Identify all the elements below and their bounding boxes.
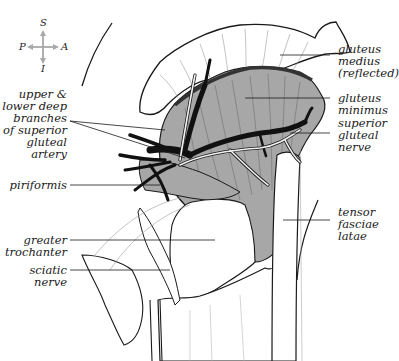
label-superior-gluteal-nerve: superior gluteal nerve xyxy=(338,117,387,153)
label-deep-branches-superior-gluteal-artery: upper & lower deep branches of superior … xyxy=(2,88,67,160)
compass-inferior: I xyxy=(41,63,45,74)
label-tensor-fasciae-latae: tensor fasciae latae xyxy=(338,206,379,242)
tfl-edge xyxy=(297,200,318,280)
label-greater-trochanter: greater trochanter xyxy=(5,234,67,258)
arrow-right-icon xyxy=(53,44,59,50)
label-gluteus-medius-reflected: gluteus medius (reflected) xyxy=(338,43,399,79)
tfl-fiber xyxy=(300,140,302,361)
compass-arrows xyxy=(30,33,56,61)
label-gluteus-minimus: gluteus minimus xyxy=(338,92,388,116)
arrow-up-icon xyxy=(40,30,46,36)
compass-anterior: A xyxy=(61,41,68,52)
arrow-left-icon xyxy=(27,44,33,50)
tensor-fasciae-latae-band xyxy=(272,152,300,361)
label-sciatic-nerve: sciatic nerve xyxy=(29,264,67,288)
compass-superior: S xyxy=(40,17,47,28)
ischium-outline xyxy=(82,255,143,345)
skin-contour xyxy=(82,23,112,86)
femur-left-edge xyxy=(150,300,152,361)
compass-posterior: P xyxy=(19,41,26,52)
label-piriformis: piriformis xyxy=(10,179,67,191)
